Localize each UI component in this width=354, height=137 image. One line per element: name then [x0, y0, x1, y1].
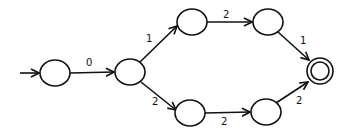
- edge-label-s2-s3: 2: [223, 9, 229, 20]
- edge-s1-s2: [140, 26, 177, 62]
- state-s2: [177, 9, 207, 35]
- state-s1: [115, 59, 145, 85]
- state-s5: [251, 99, 281, 125]
- state-s0: [40, 60, 70, 86]
- state-s6-accepting: [307, 58, 333, 84]
- edge-label-s1-s2: 1: [146, 33, 152, 44]
- edge-label-s3-s6: 1: [300, 35, 306, 46]
- edge-label-s0-s1: 0: [86, 57, 92, 68]
- state-s3: [253, 9, 283, 35]
- edge-label-s5-s6: 2: [296, 95, 302, 106]
- automaton-diagram: 0 1 2 2 2 1 2: [0, 0, 354, 137]
- edge-s1-s4: [141, 82, 176, 110]
- state-s4: [175, 100, 205, 126]
- edge-s5-s6: [276, 82, 308, 103]
- edge-s4-s5: [205, 112, 250, 113]
- edge-s0-s1: [70, 72, 114, 73]
- edge-label-s1-s4: 2: [152, 96, 158, 107]
- edge-label-s4-s5: 2: [221, 116, 227, 127]
